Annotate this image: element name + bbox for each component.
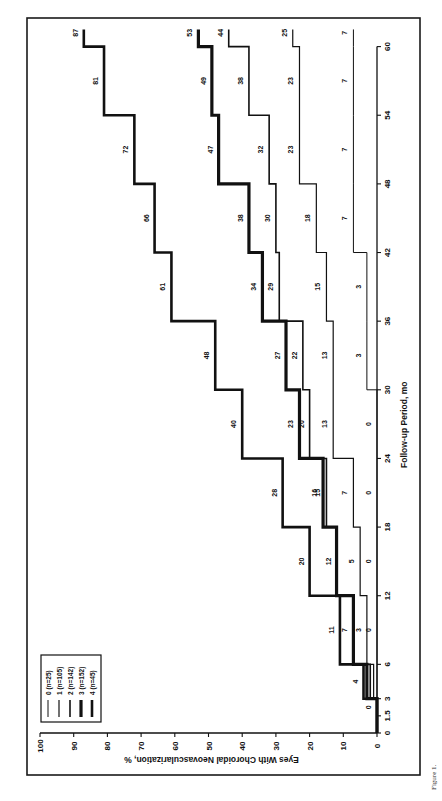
- data-label: 0: [365, 559, 372, 563]
- legend-label: 0 (n=25): [45, 670, 53, 695]
- data-label: 0: [365, 422, 372, 426]
- data-label: 44: [217, 29, 224, 37]
- data-label: 16: [311, 489, 318, 497]
- x-tick-label: 36: [383, 316, 392, 325]
- data-label: 23: [287, 77, 294, 85]
- y-tick-label: 40: [238, 741, 247, 750]
- data-label: 4: [352, 679, 359, 683]
- data-label: 3: [355, 353, 362, 357]
- data-label: 47: [207, 146, 214, 154]
- data-label: 13: [321, 420, 328, 428]
- data-label: 7: [341, 148, 348, 152]
- legend-label: 1 (n=105): [56, 667, 64, 695]
- legend-label: 3 (n=152): [78, 667, 86, 695]
- data-label: 0: [365, 705, 372, 709]
- data-label: 72: [122, 146, 129, 154]
- x-axis-title: Follow-up Period, mo: [399, 382, 409, 468]
- data-label: 30: [264, 214, 271, 222]
- x-tick-label: 48: [383, 179, 392, 188]
- legend-label: 4 (n=45): [89, 670, 97, 695]
- data-label: 66: [143, 214, 150, 222]
- data-label: 3: [355, 285, 362, 289]
- step-line: [353, 29, 377, 733]
- y-tick-label: 20: [306, 741, 315, 750]
- data-label: 20: [298, 557, 305, 565]
- y-tick-label: 10: [339, 741, 348, 750]
- data-label: 7: [341, 628, 348, 632]
- y-axis-title: Eyes With Choroidal Neovascularization, …: [124, 755, 299, 765]
- step-line: [198, 29, 377, 733]
- data-label: 28: [271, 489, 278, 497]
- data-label: 53: [186, 29, 193, 37]
- data-label: 61: [159, 283, 166, 291]
- y-tick-label: 30: [272, 741, 281, 750]
- data-label: 7: [341, 491, 348, 495]
- x-tick-label: 30: [383, 385, 392, 394]
- data-label: 18: [304, 214, 311, 222]
- x-tick-label: 42: [383, 248, 392, 257]
- x-tick-label: 60: [383, 42, 392, 51]
- legend: 0 (n=25)1 (n=105)2 (n=142)3 (n=152)4 (n=…: [41, 655, 101, 722]
- y-tick-label: 70: [137, 741, 146, 750]
- data-label: 38: [237, 77, 244, 85]
- data-series: 0000337777357131315182323250712152022293…: [72, 29, 377, 733]
- data-label: 32: [257, 146, 264, 154]
- y-tick-label: 0: [373, 743, 382, 748]
- x-tick-label: 1.5: [383, 710, 392, 722]
- data-label: 7: [341, 31, 348, 35]
- data-label: 87: [72, 29, 79, 37]
- data-label: 11: [328, 626, 335, 634]
- data-label: 7: [341, 216, 348, 220]
- data-label: 13: [321, 351, 328, 359]
- cumulative-incidence-chart: 01.536121824303642485460Follow-up Period…: [0, 0, 442, 801]
- data-label: 5: [348, 559, 355, 563]
- data-label: 25: [281, 29, 288, 37]
- x-tick-label: 18: [383, 522, 392, 531]
- y-tick-label: 50: [205, 741, 214, 750]
- data-label: 3: [355, 628, 362, 632]
- data-label: 0: [365, 628, 372, 632]
- data-label: 23: [287, 146, 294, 154]
- data-label: 48: [203, 351, 210, 359]
- y-tick-label: 60: [171, 741, 180, 750]
- data-label: 81: [92, 77, 99, 85]
- data-label: 15: [314, 283, 321, 291]
- figure-caption: Figure 1.: [430, 764, 438, 790]
- series-stage-4: 411202840486166728187: [72, 29, 377, 733]
- y-tick-label: 100: [36, 739, 45, 753]
- data-label: 38: [237, 214, 244, 222]
- x-tick-label: 3: [383, 696, 392, 701]
- data-label: 22: [291, 351, 298, 359]
- legend-label: 2 (n=142): [67, 667, 75, 695]
- y-tick-label: 90: [70, 741, 79, 750]
- x-tick-label: 0: [383, 730, 392, 735]
- data-label: 23: [287, 420, 294, 428]
- data-label: 7: [341, 79, 348, 83]
- data-label: 40: [230, 420, 237, 428]
- x-tick-label: 12: [383, 591, 392, 600]
- series-stage-0: 0000337777: [341, 29, 377, 733]
- data-label: 0: [365, 491, 372, 495]
- x-tick-label: 54: [383, 110, 392, 119]
- data-label: 27: [274, 351, 281, 359]
- y-tick-label: 80: [103, 741, 112, 750]
- x-tick-label: 24: [383, 453, 392, 462]
- data-label: 12: [325, 557, 332, 565]
- data-label: 29: [267, 283, 274, 291]
- data-label: 34: [250, 283, 257, 291]
- data-label: 49: [200, 77, 207, 85]
- x-tick-label: 6: [383, 662, 392, 667]
